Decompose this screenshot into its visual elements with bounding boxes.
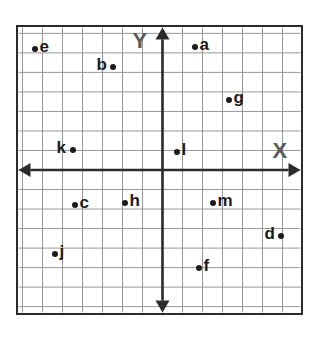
coordinate-grid-figure: Y X abcdefghjklm <box>0 0 320 339</box>
plot-frame <box>16 25 303 315</box>
